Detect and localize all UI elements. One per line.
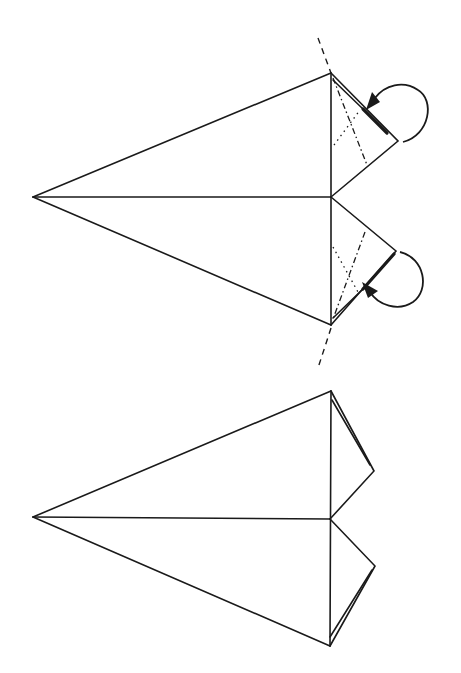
hidden-line-upper bbox=[334, 110, 360, 145]
valley-fold-line-bottom bbox=[318, 328, 331, 368]
mountain-fold-line-upper bbox=[333, 78, 367, 165]
upper-wing-flap bbox=[331, 73, 398, 197]
lower-wing-flap-result bbox=[330, 519, 375, 646]
plane-body-outline bbox=[33, 73, 331, 325]
mountain-fold-line-lower bbox=[333, 232, 365, 319]
lower-wing-flap bbox=[331, 197, 396, 325]
lower-flap-edge-emphasis bbox=[363, 254, 394, 289]
origami-diagram bbox=[0, 0, 461, 673]
fold-arrow-upper-icon bbox=[366, 85, 428, 142]
upper-wing-flap-result bbox=[330, 391, 374, 519]
step-fold-wingtips bbox=[33, 38, 428, 368]
upper-flap-edge-emphasis bbox=[363, 109, 387, 133]
valley-fold-line-top bbox=[318, 38, 331, 73]
plane-body-outline-result bbox=[33, 391, 331, 646]
step-result bbox=[33, 391, 375, 646]
